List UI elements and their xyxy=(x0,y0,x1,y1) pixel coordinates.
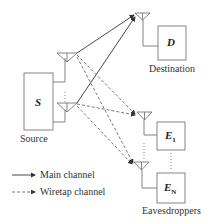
antenna-icon xyxy=(134,162,149,170)
destination-caption: Destination xyxy=(149,63,195,74)
antenna-icon xyxy=(135,13,150,20)
wiretap-channel-link xyxy=(77,106,132,164)
main-channel-link xyxy=(77,15,134,53)
main-channel-link xyxy=(77,17,135,103)
destination-label: D xyxy=(167,36,175,48)
eavesdropper-n-label: EN xyxy=(164,181,176,196)
legend-wiretap-label: Wiretap channel xyxy=(40,186,105,197)
eavesdropper-1-label: E1 xyxy=(165,129,176,144)
wiretap-channel-link xyxy=(77,57,133,163)
antenna-icon xyxy=(137,112,152,120)
antenna-icon xyxy=(57,53,77,62)
source-label: S xyxy=(35,96,41,108)
eavesdroppers-caption: Eavesdroppers xyxy=(142,205,201,216)
legend-main-label: Main channel xyxy=(40,169,95,180)
wiretap-channel-link xyxy=(77,55,135,114)
source-caption: Source xyxy=(20,133,48,144)
antenna-icon xyxy=(57,103,77,112)
